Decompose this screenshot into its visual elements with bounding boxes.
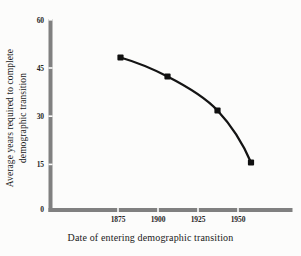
y-axis-title-line2: demographic transition xyxy=(16,11,29,226)
data-point-markers xyxy=(117,54,254,165)
data-point-marker xyxy=(117,54,123,60)
x-tick-label-1875: 1875 xyxy=(100,215,136,224)
data-point-marker xyxy=(248,159,254,165)
demographic-transition-chart: 60 45 30 15 0 1875 1900 1925 1950 Date o… xyxy=(0,0,301,256)
x-axis-line xyxy=(49,208,293,212)
x-tick-label-1925: 1925 xyxy=(180,215,216,224)
x-tick-label-1900: 1900 xyxy=(140,215,176,224)
y-axis-title-line1: Average years required to complete xyxy=(5,49,15,187)
data-point-marker xyxy=(214,107,220,113)
data-point-marker xyxy=(164,73,170,79)
y-axis-title: Average years required to complete demog… xyxy=(4,11,34,226)
x-axis-title: Date of entering demographic transition xyxy=(0,232,301,243)
x-tick-label-1950: 1950 xyxy=(220,215,256,224)
data-curve xyxy=(121,58,252,163)
